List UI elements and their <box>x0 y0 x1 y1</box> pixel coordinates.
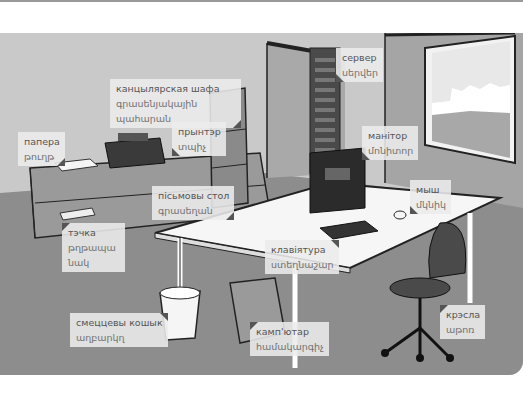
label-server-hy: սերվեր <box>342 65 378 80</box>
pointer-arrow-icon <box>160 313 168 321</box>
label-desk-hy: գրասեղան <box>158 203 229 218</box>
pointer-arrow-icon <box>440 305 448 313</box>
pointer-arrow-icon <box>233 120 241 128</box>
label-desk: пісьмовы стол գրասեղան <box>152 186 234 220</box>
label-keyboard-ru: клавіятура <box>271 242 334 257</box>
label-paper: папера թուղթ <box>18 132 65 166</box>
label-computer-ru: камп'ютар <box>256 324 324 339</box>
pointer-arrow-icon <box>336 74 344 82</box>
label-mouse-hy: մկնիկ <box>416 197 446 212</box>
label-chair-hy: աթոռ <box>446 322 480 337</box>
label-cabinet-ru: канцылярская шафа <box>116 81 236 96</box>
pointer-arrow-icon <box>62 223 70 231</box>
label-printer-ru: прынтэр <box>178 124 221 139</box>
label-computer: камп'ютар համակարգիչ <box>250 322 329 356</box>
label-wastebasket: смеццевы кошык աղբարկղ <box>70 313 168 347</box>
label-chair-ru: крэсла <box>446 307 480 322</box>
label-keyboard-hy: ստեղնաշար <box>271 257 334 272</box>
label-printer: прынтэр տպիչ <box>172 122 226 156</box>
label-keyboard: клавіятура ստեղնաշար <box>265 240 339 274</box>
label-paper-hy: թուղթ <box>24 149 60 164</box>
label-cabinet: канцылярская шафа գրասենյակային պահարան <box>110 79 241 128</box>
label-printer-hy: տպիչ <box>178 139 221 154</box>
label-wastebasket-ru: смеццевы кошык <box>76 315 163 330</box>
label-mouse-ru: мыш <box>416 182 446 197</box>
label-monitor-hy: մոնիտոր <box>368 143 413 158</box>
label-chair: крэсла աթոռ <box>440 305 485 339</box>
pointer-arrow-icon <box>57 158 65 166</box>
label-desk-ru: пісьмовы стол <box>158 188 229 203</box>
label-stapler-ru: тэчка <box>68 225 120 240</box>
top-border <box>0 0 523 2</box>
label-stapler: тэчка թղթապանակ <box>62 223 125 272</box>
label-server-ru: сервер <box>342 50 378 65</box>
pointer-arrow-icon <box>410 206 418 214</box>
label-wastebasket-hy: աղբարկղ <box>76 330 163 345</box>
label-server: сервер սերվեր <box>336 48 383 82</box>
label-mouse: мыш մկնիկ <box>410 180 451 214</box>
label-monitor: манітор մոնիտոր <box>362 126 418 160</box>
label-paper-ru: папера <box>24 134 60 149</box>
pointer-arrow-icon <box>250 322 258 330</box>
pointer-arrow-icon <box>226 212 234 220</box>
label-monitor-ru: манітор <box>368 128 413 143</box>
label-stapler-hy: թղթապանակ <box>68 240 120 270</box>
pointer-arrow-icon <box>172 148 180 156</box>
pointer-arrow-icon <box>331 240 339 248</box>
label-computer-hy: համակարգիչ <box>256 339 324 354</box>
pointer-arrow-icon <box>362 152 370 160</box>
